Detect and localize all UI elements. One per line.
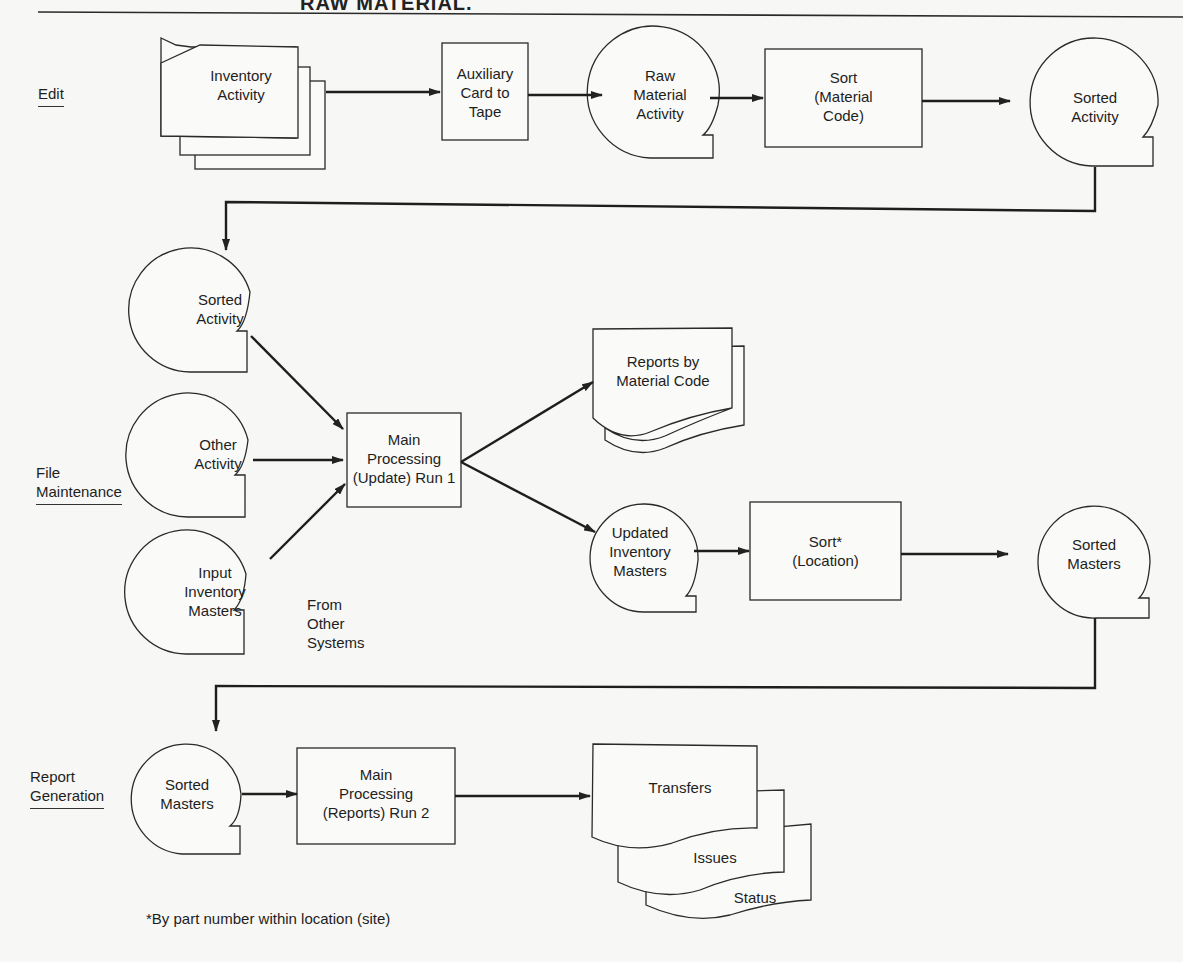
maintenance-label: Maintenance (36, 482, 122, 505)
text-line: (Reports) Run 2 (297, 803, 455, 822)
text-line: From (307, 595, 365, 614)
text-line: Activity (186, 85, 296, 104)
text-line: (Location) (750, 551, 901, 570)
text-line: Code) (765, 106, 922, 125)
auxiliary-card-label: Auxiliary Card to Tape (442, 64, 528, 121)
section-label-report-generation: Report Generation (30, 767, 104, 809)
text-line: Activity (612, 104, 708, 123)
text-line: Sort* (750, 532, 901, 551)
text-line: Systems (307, 633, 365, 652)
text-line: (Material (765, 87, 922, 106)
text-line: Main (347, 430, 461, 449)
main-processing-2-label: Main Processing (Reports) Run 2 (297, 765, 455, 822)
text-line: Reports by (593, 352, 733, 371)
edit-label: Edit (38, 84, 64, 107)
text-line: Updated (590, 523, 690, 542)
reports-document (593, 328, 744, 453)
text-line: Activity (1040, 107, 1150, 126)
text-line: Sorted (137, 775, 237, 794)
text-line: Inventory (186, 66, 296, 85)
text-line: Masters (590, 561, 690, 580)
text-line: Auxiliary (442, 64, 528, 83)
text-line: Material (612, 85, 708, 104)
file-label: File (36, 463, 122, 482)
text-line: Processing (347, 449, 461, 468)
sorted-masters-label: Sorted Masters (137, 775, 237, 813)
sorted-activity-top-label: Sorted Activity (1040, 88, 1150, 126)
inventory-activity-label: Inventory Activity (186, 66, 296, 104)
section-label-edit: Edit (38, 84, 64, 107)
text-line: Activity (168, 454, 268, 473)
input-inventory-masters-label: Input Inventory Masters (165, 563, 265, 620)
footnote: *By part number within location (site) (146, 910, 390, 927)
text-line: Raw (612, 66, 708, 85)
text-line: Inventory (590, 542, 690, 561)
text-line: Activity (170, 309, 270, 328)
text-line: Sorted (170, 290, 270, 309)
transfers-label: Transfers (630, 778, 730, 797)
other-activity-label: Other Activity (168, 435, 268, 473)
text-line: Processing (297, 784, 455, 803)
sorted-masters-right-label: Sorted Masters (1040, 535, 1148, 573)
text-line: Masters (137, 794, 237, 813)
text-line: Sort (765, 68, 922, 87)
text-line: Main (297, 765, 455, 784)
text-line: Masters (1040, 554, 1148, 573)
text-line: Masters (165, 601, 265, 620)
issues-label: Issues (675, 848, 755, 867)
from-other-systems-note: From Other Systems (307, 595, 365, 652)
updated-inventory-masters-label: Updated Inventory Masters (590, 523, 690, 580)
text-line: (Update) Run 1 (347, 468, 461, 487)
text-line: Sorted (1040, 88, 1150, 107)
reports-by-material-code-label: Reports by Material Code (593, 352, 733, 390)
header-rule (38, 12, 1183, 17)
text-line: Tape (442, 102, 528, 121)
report-label: Report (30, 767, 104, 786)
text-line: Material Code (593, 371, 733, 390)
text-line: Other (307, 614, 365, 633)
sort-location-label: Sort* (Location) (750, 532, 901, 570)
status-label: Status (715, 888, 795, 907)
sorted-activity-label: Sorted Activity (170, 290, 270, 328)
text-line: Sorted (1040, 535, 1148, 554)
text-line: Card to (442, 83, 528, 102)
main-processing-1-label: Main Processing (Update) Run 1 (347, 430, 461, 487)
section-label-file-maintenance: File Maintenance (36, 463, 122, 505)
sort-material-code-label: Sort (Material Code) (765, 68, 922, 125)
raw-material-activity-label: Raw Material Activity (612, 66, 708, 123)
text-line: Inventory (165, 582, 265, 601)
text-line: Input (165, 563, 265, 582)
generation-label: Generation (30, 786, 104, 809)
text-line: Other (168, 435, 268, 454)
flowchart-canvas (0, 0, 1183, 962)
